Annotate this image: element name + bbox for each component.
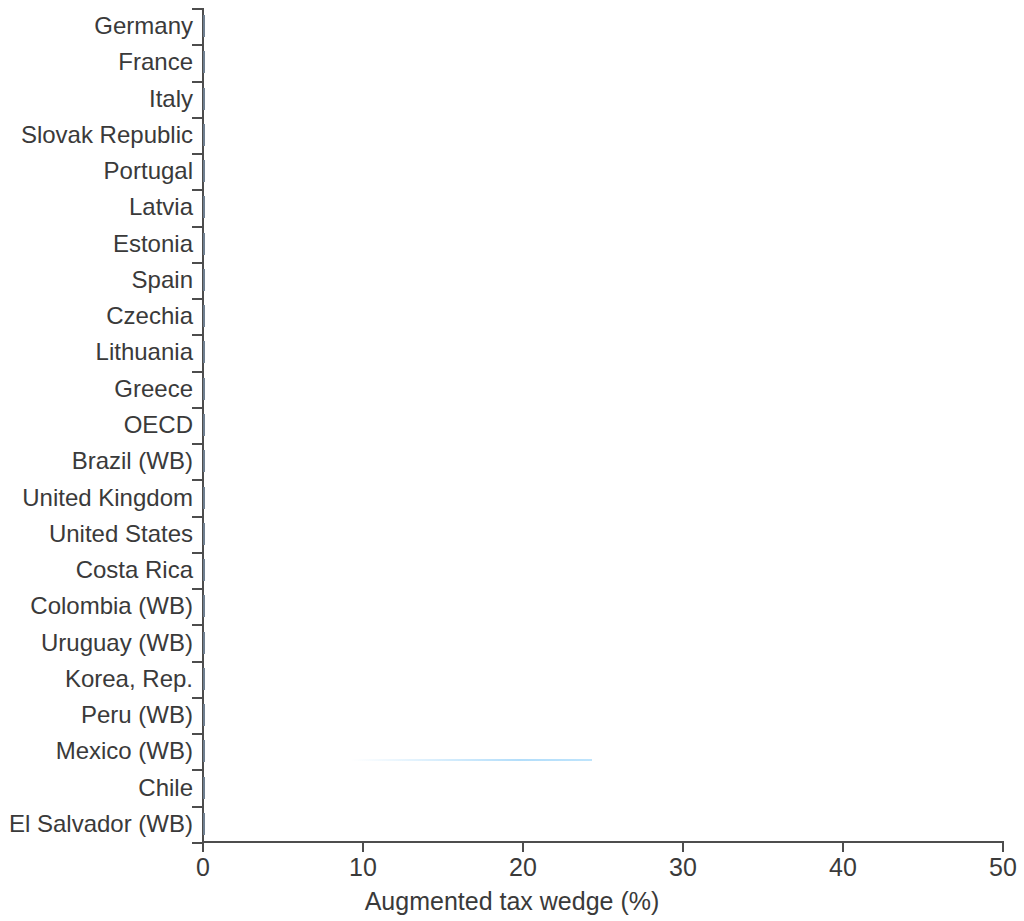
- y-axis-tick: [192, 8, 203, 10]
- bar-costa-rica: [203, 559, 661, 581]
- y-axis-label: Portugal: [104, 159, 193, 183]
- bar-czechia: [203, 305, 848, 327]
- bar-fill: [203, 196, 205, 218]
- y-axis-label: Peru (WB): [81, 703, 193, 727]
- bar-chile: [203, 777, 565, 799]
- y-axis-tick: [192, 661, 203, 663]
- y-axis-label: Lithuania: [96, 340, 193, 364]
- bar-fill: [203, 668, 205, 690]
- y-axis-label: El Salvador (WB): [9, 812, 193, 836]
- bar-fill: [203, 88, 205, 110]
- bar-united-kingdom: [203, 487, 705, 509]
- bar-uruguay-wb: [203, 632, 632, 654]
- augmented-tax-wedge-bar-chart: GermanyFranceItalySlovak RepublicPortuga…: [0, 0, 1024, 921]
- bar-fill: [203, 124, 205, 146]
- x-axis-tick: [1002, 842, 1004, 852]
- y-axis-tick: [192, 588, 203, 590]
- x-axis-tick-label: 40: [829, 853, 857, 881]
- y-axis-tick: [192, 769, 203, 771]
- y-axis-tick: [192, 117, 203, 119]
- y-axis-tick: [192, 189, 203, 191]
- x-axis-tick: [522, 842, 524, 852]
- y-axis-tick: [192, 226, 203, 228]
- y-axis-label: Czechia: [106, 304, 193, 328]
- bar-portugal: [203, 160, 881, 182]
- bar-fill: [203, 813, 205, 835]
- bar-fill: [203, 632, 205, 654]
- y-axis-tick: [192, 516, 203, 518]
- y-axis-label: Mexico (WB): [56, 739, 193, 763]
- bar-brazil-wb: [203, 450, 705, 472]
- y-axis-tick: [192, 443, 203, 445]
- bar-fill: [203, 559, 205, 581]
- bar-slovak-republic: [203, 124, 912, 146]
- y-axis-tick: [192, 371, 203, 373]
- bar-fill: [203, 450, 205, 472]
- bar-fill: [203, 487, 205, 509]
- y-axis-tick: [192, 552, 203, 554]
- y-axis-tick: [192, 407, 203, 409]
- y-axis-label: United Kingdom: [22, 486, 193, 510]
- bar-mexico-wb: [203, 740, 592, 762]
- bar-estonia: [203, 233, 853, 255]
- bar-spain: [203, 269, 848, 291]
- y-axis-label: Uruguay (WB): [41, 631, 193, 655]
- x-axis-tick-label: 30: [669, 853, 697, 881]
- y-axis-label: Brazil (WB): [72, 449, 193, 473]
- bar-fill: [203, 233, 205, 255]
- bar-lithuania: [203, 341, 829, 363]
- bar-fill: [203, 15, 205, 37]
- bar-oecd: [203, 414, 811, 436]
- bar-peru-wb: [203, 704, 592, 726]
- y-axis-label: Slovak Republic: [21, 123, 193, 147]
- y-axis-tick: [192, 153, 203, 155]
- bar-fill: [203, 595, 205, 617]
- y-axis-tick: [192, 479, 203, 481]
- x-axis-tick: [362, 842, 364, 852]
- y-axis-label: OECD: [124, 413, 193, 437]
- bar-france: [203, 51, 952, 73]
- x-axis-tick: [202, 842, 204, 852]
- bar-germany: [203, 15, 969, 37]
- bar-series: [203, 8, 1003, 842]
- x-axis-tick-label: 0: [196, 853, 210, 881]
- bar-colombia-wb: [203, 595, 641, 617]
- x-axis-tick-label: 20: [509, 853, 537, 881]
- x-axis-tick-label: 50: [989, 853, 1017, 881]
- y-axis-tick: [192, 806, 203, 808]
- y-axis-label: Costa Rica: [76, 558, 193, 582]
- bar-italy: [203, 88, 928, 110]
- y-axis-tick: [192, 262, 203, 264]
- bar-fill: [203, 378, 205, 400]
- bar-korea-rep: [203, 668, 597, 690]
- bar-fill: [203, 341, 205, 363]
- bar-fill: [203, 704, 205, 726]
- y-axis-label: Spain: [132, 268, 193, 292]
- y-axis-label: Germany: [94, 14, 193, 38]
- bar-fill: [203, 777, 205, 799]
- y-axis-tick: [192, 624, 203, 626]
- y-axis-label: France: [118, 50, 193, 74]
- y-axis-tick: [192, 697, 203, 699]
- bar-fill: [203, 51, 205, 73]
- y-axis-label: United States: [49, 522, 193, 546]
- bar-greece: [203, 378, 821, 400]
- y-axis-label: Greece: [114, 377, 193, 401]
- bar-latvia: [203, 196, 862, 218]
- bar-fill: [203, 160, 205, 182]
- y-axis-tick: [192, 44, 203, 46]
- y-axis-tick: [192, 334, 203, 336]
- y-axis-label: Colombia (WB): [30, 594, 193, 618]
- bar-fill: [203, 523, 205, 545]
- y-axis-label: Estonia: [113, 232, 193, 256]
- y-axis-tick: [192, 733, 203, 735]
- scan-artifact-streak: [351, 759, 592, 761]
- y-axis-label: Italy: [149, 87, 193, 111]
- x-axis-title: Augmented tax wedge (%): [0, 886, 1024, 916]
- y-axis-tick: [192, 81, 203, 83]
- bar-fill: [203, 414, 205, 436]
- x-axis-tick: [682, 842, 684, 852]
- bar-united-states: [203, 523, 683, 545]
- y-axis-tick: [192, 298, 203, 300]
- bar-fill: [203, 269, 205, 291]
